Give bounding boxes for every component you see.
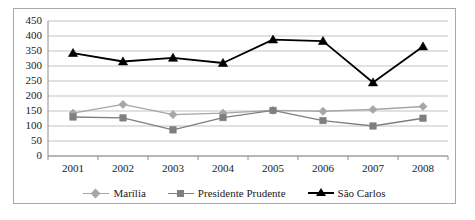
legend-label: Marília — [113, 187, 145, 199]
legend-item[interactable]: Presidente Prudente — [168, 187, 286, 199]
legend-item[interactable]: São Carlos — [308, 187, 386, 199]
y-axis-tick-label: 200 — [12, 90, 42, 101]
x-axis-tick-label: 2004 — [200, 163, 246, 174]
legend-marker-diamond-icon — [83, 193, 109, 194]
y-axis-tick-label: 400 — [12, 30, 42, 41]
x-axis-tick-label: 2002 — [100, 163, 146, 174]
legend-marker-square-icon — [168, 193, 194, 194]
x-axis-tick-label: 2001 — [50, 163, 96, 174]
x-axis-tick-label: 2007 — [350, 163, 396, 174]
gridlines — [48, 21, 448, 156]
axis-lines — [48, 21, 448, 156]
legend-label: São Carlos — [338, 187, 386, 199]
y-axis-tick-label: 350 — [12, 45, 42, 56]
y-axis-tick-label: 150 — [12, 105, 42, 116]
y-axis-tick-label: 100 — [12, 120, 42, 131]
legend-label: Presidente Prudente — [198, 187, 286, 199]
y-axis-tick-label: 300 — [12, 60, 42, 71]
legend-item[interactable]: Marília — [83, 187, 145, 199]
x-tick-marks — [48, 156, 448, 160]
series-layer — [68, 35, 427, 133]
y-axis-tick-label: 250 — [12, 75, 42, 86]
chart-legend: MaríliaPresidente PrudenteSão Carlos — [13, 184, 456, 202]
x-axis-tick-label: 2005 — [250, 163, 296, 174]
y-axis-tick-label: 0 — [12, 150, 42, 161]
legend-square-glyph-icon — [177, 190, 184, 197]
x-axis-tick-label: 2006 — [300, 163, 346, 174]
x-axis-tick-label: 2003 — [150, 163, 196, 174]
legend-marker-triangle-icon — [308, 192, 334, 194]
legend-triangle-glyph-icon — [316, 188, 326, 196]
y-axis-tick-label: 450 — [12, 15, 42, 26]
legend-diamond-glyph-icon — [91, 188, 101, 198]
y-axis-tick-label: 50 — [12, 135, 42, 146]
x-axis-tick-label: 2008 — [400, 163, 446, 174]
